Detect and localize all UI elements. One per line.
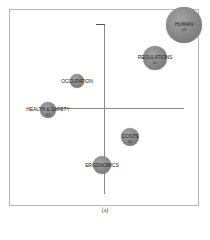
- bubble-label: ERGONOMICS: [85, 162, 119, 168]
- bubble-value: 41: [153, 59, 157, 64]
- bubble-value: 26: [128, 138, 132, 143]
- bubble-label: OCCUPATION: [61, 78, 93, 84]
- bubble-value: 09: [182, 26, 186, 31]
- figure-caption: (a): [0, 207, 210, 213]
- vertical-axis-top-tick: [96, 24, 105, 25]
- bubble-value: 01: [46, 111, 50, 116]
